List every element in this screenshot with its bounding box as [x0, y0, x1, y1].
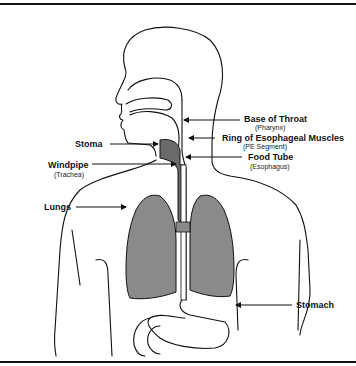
- palate: [126, 98, 172, 112]
- left-arm-inner: [72, 230, 80, 285]
- label-trachea: Windpipe: [48, 160, 88, 170]
- stomach-outline: [148, 300, 229, 348]
- label-pe-segment: Ring of Esophageal Muscles: [222, 133, 344, 143]
- intestine-loop-inner: [148, 326, 160, 354]
- anatomy-diagram: Base of Throat (Pharynx) Ring of Esophag…: [0, 0, 356, 366]
- esophagus-tube: [181, 165, 186, 300]
- label-pe-segment-sub: (PE Segment): [243, 143, 287, 151]
- label-esophagus-sub: (Esophagus): [250, 163, 290, 171]
- label-lungs: Lungs: [44, 202, 71, 212]
- label-pharynx-sub: (Pharynx): [255, 124, 285, 132]
- label-trachea-sub: (Trachea): [54, 171, 84, 179]
- nasal-cavity: [128, 78, 182, 100]
- right-lung: [190, 195, 234, 296]
- label-pharynx: Base of Throat: [244, 114, 307, 124]
- right-inner-torso: [236, 260, 248, 330]
- body-outline-illustration: [0, 0, 356, 366]
- left-lung: [126, 195, 176, 299]
- left-inner-torso: [96, 260, 112, 356]
- bronchi-junction: [176, 222, 190, 232]
- label-stoma: Stoma: [75, 139, 103, 149]
- label-esophagus: Food Tube: [248, 152, 293, 162]
- right-arm: [298, 240, 300, 330]
- label-stomach: Stomach: [296, 300, 334, 310]
